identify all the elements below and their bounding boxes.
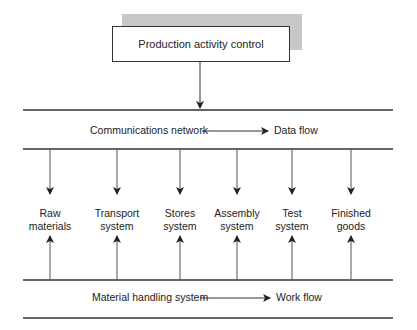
diagram-lines: [0, 0, 417, 330]
node-raw-materials: Raw materials: [15, 207, 85, 233]
node-line1: Raw: [15, 207, 85, 220]
node-line1: Transport: [82, 207, 152, 220]
node-finished-goods: Finished goods: [316, 207, 386, 233]
node-line2: system: [82, 220, 152, 233]
material-handling-label: Material handling system: [92, 291, 208, 303]
up-arrows: [50, 236, 351, 280]
node-transport-system: Transport system: [82, 207, 152, 233]
data-flow-label: Data flow: [274, 124, 318, 136]
work-flow-label: Work flow: [276, 291, 322, 303]
down-arrows: [50, 149, 351, 194]
communications-network-label: Communications network: [90, 124, 208, 136]
node-line2: materials: [15, 220, 85, 233]
node-line2: goods: [316, 220, 386, 233]
node-line1: Finished: [316, 207, 386, 220]
